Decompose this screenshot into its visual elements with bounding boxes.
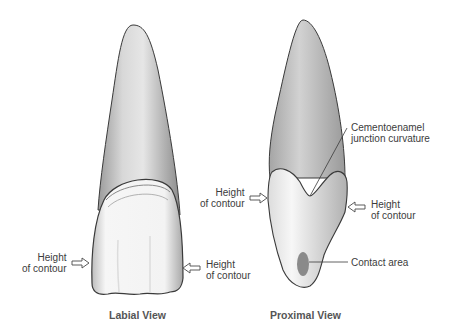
contact-area-marker xyxy=(297,252,309,276)
label-line: Cementoenamel xyxy=(351,122,430,133)
label-line: of contour xyxy=(22,263,66,274)
label-line: Height xyxy=(22,252,66,263)
label-line: Height xyxy=(371,199,415,210)
cej-curvature-label: Cementoenamel junction curvature xyxy=(351,122,430,144)
labial-tooth xyxy=(92,25,183,294)
proximal-left-arrow-icon xyxy=(250,193,267,203)
labial-left-height-label: Height of contour xyxy=(22,252,66,274)
tooth-diagram: Height of contour Height of contour Ceme… xyxy=(0,0,449,330)
labial-view-caption: Labial View xyxy=(109,309,166,321)
proximal-tooth xyxy=(268,20,348,287)
labial-crown xyxy=(92,179,183,294)
label-line: Height xyxy=(206,259,250,270)
label-line: of contour xyxy=(200,198,244,209)
labial-right-height-label: Height of contour xyxy=(206,259,250,281)
label-line: Height xyxy=(200,187,244,198)
proximal-view-caption: Proximal View xyxy=(270,309,341,321)
labial-left-arrow-icon xyxy=(72,258,89,268)
labial-right-arrow-icon xyxy=(183,263,200,273)
proximal-right-arrow-icon xyxy=(348,202,365,212)
label-line: junction curvature xyxy=(351,133,430,144)
label-line: of contour xyxy=(206,270,250,281)
contact-area-label: Contact area xyxy=(351,257,408,268)
proximal-root xyxy=(269,20,345,178)
proximal-right-height-label: Height of contour xyxy=(371,199,415,221)
label-line: of contour xyxy=(371,210,415,221)
proximal-left-height-label: Height of contour xyxy=(200,187,244,209)
